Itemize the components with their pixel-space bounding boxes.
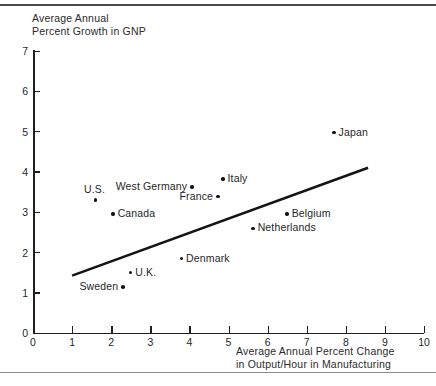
data-point-label: Italy <box>228 172 248 184</box>
data-point-label: Belgium <box>292 207 331 219</box>
data-point-label: Sweden <box>79 280 118 292</box>
bottom-rule <box>0 372 436 373</box>
data-point <box>332 131 335 134</box>
plot-area: 7 6 5 4 3 2 1 0 0 1 2 3 4 5 6 7 8 9 10 U… <box>0 0 436 386</box>
data-point-label: Denmark <box>186 252 230 264</box>
data-point-label: West Germany <box>116 180 188 192</box>
data-point <box>121 285 124 288</box>
figure: Average AnnualPercent Growth in GNP 7 6 … <box>0 0 436 386</box>
x-axis-title: Average Annual Percent Changein Output/H… <box>236 345 395 371</box>
data-point <box>190 185 193 188</box>
data-point <box>221 177 224 180</box>
data-point-label: Japan <box>339 126 368 138</box>
x-axis-title-line2: in Output/Hour in Manufacturing <box>236 358 391 370</box>
trend-line <box>0 0 436 386</box>
data-point-label: Netherlands <box>258 221 316 233</box>
data-point-label: Canada <box>118 207 156 219</box>
data-point <box>111 212 114 215</box>
data-point-label: U.K. <box>135 266 156 278</box>
data-point <box>94 198 97 201</box>
data-point-label: U.S. <box>84 183 105 195</box>
data-point <box>285 212 288 215</box>
data-point-label: France <box>179 190 213 202</box>
source-note <box>86 377 386 386</box>
data-point <box>251 227 254 230</box>
x-axis-title-line1: Average Annual Percent Change <box>236 345 395 357</box>
